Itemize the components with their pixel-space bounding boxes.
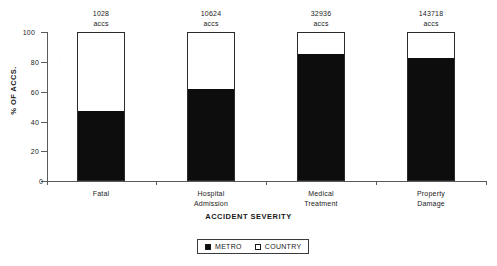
bar-metro-hospital-admission [188, 89, 234, 180]
x-axis-title: ACCIDENT SEVERITY [0, 212, 497, 221]
hollow-square-icon [255, 244, 261, 250]
x-category-label-property-damage: Property Damage [386, 189, 476, 208]
plot-area [47, 32, 487, 181]
bar-annotation-value-fatal: 1028 [63, 9, 139, 19]
y-tick-label-0: 0 [17, 178, 43, 185]
bar-annotation-unit-medical-treatment: accs [283, 19, 359, 29]
x-category-line-fatal-0: Fatal [56, 189, 146, 199]
x-tick-3 [376, 181, 377, 185]
bar-country-fatal [77, 32, 125, 181]
bar-annotation-property-damage: 143718 accs [393, 9, 469, 28]
bar-annotation-unit-hospital-admission: accs [173, 19, 249, 29]
x-category-line-medical-treatment-1: Treatment [276, 199, 366, 209]
bar-country-hospital-admission [187, 32, 235, 181]
bar-metro-fatal [78, 111, 124, 180]
legend-item-metro: METRO [205, 243, 242, 250]
y-tick-label-80: 80 [13, 59, 39, 66]
chart-legend: METRO COUNTRY [197, 239, 309, 254]
y-tick-label-40: 40 [13, 119, 39, 126]
x-axis-line [47, 181, 487, 182]
bar-annotation-value-hospital-admission: 10624 [173, 9, 249, 19]
x-category-line-medical-treatment-0: Medical [276, 189, 366, 199]
bar-metro-medical-treatment [298, 54, 344, 180]
bar-annotation-unit-fatal: accs [63, 19, 139, 29]
x-tick-2 [266, 181, 267, 185]
legend-label-metro: METRO [215, 243, 242, 250]
x-category-line-property-damage-1: Damage [386, 199, 476, 209]
legend-label-country: COUNTRY [265, 243, 302, 250]
x-tick-1 [156, 181, 157, 185]
bar-annotation-medical-treatment: 32936 accs [283, 9, 359, 28]
x-tick-start [47, 181, 48, 185]
x-category-line-property-damage-0: Property [386, 189, 476, 199]
x-tick-end [486, 181, 487, 185]
x-category-label-hospital-admission: Hospital Admission [166, 189, 256, 208]
legend-item-country: COUNTRY [255, 243, 302, 250]
bar-annotation-value-medical-treatment: 32936 [283, 9, 359, 19]
bar-annotation-unit-property-damage: accs [393, 19, 469, 29]
bar-country-property-damage [407, 32, 455, 181]
bar-country-medical-treatment [297, 32, 345, 181]
bar-metro-property-damage [408, 58, 454, 180]
x-category-label-fatal: Fatal [56, 189, 146, 199]
y-tick-label-60: 60 [13, 89, 39, 96]
filled-square-icon [205, 244, 211, 250]
bar-annotation-fatal: 1028 accs [63, 9, 139, 28]
x-category-line-hospital-admission-0: Hospital [166, 189, 256, 199]
bar-annotation-hospital-admission: 10624 accs [173, 9, 249, 28]
accident-severity-chart: % OF ACCS. 0 20 40 60 80 100 [0, 0, 497, 266]
bar-annotation-value-property-damage: 143718 [393, 9, 469, 19]
x-category-line-hospital-admission-1: Admission [166, 199, 256, 209]
x-category-label-medical-treatment: Medical Treatment [276, 189, 366, 208]
y-tick-label-100: 100 [9, 29, 35, 36]
y-tick-label-20: 20 [13, 148, 39, 155]
